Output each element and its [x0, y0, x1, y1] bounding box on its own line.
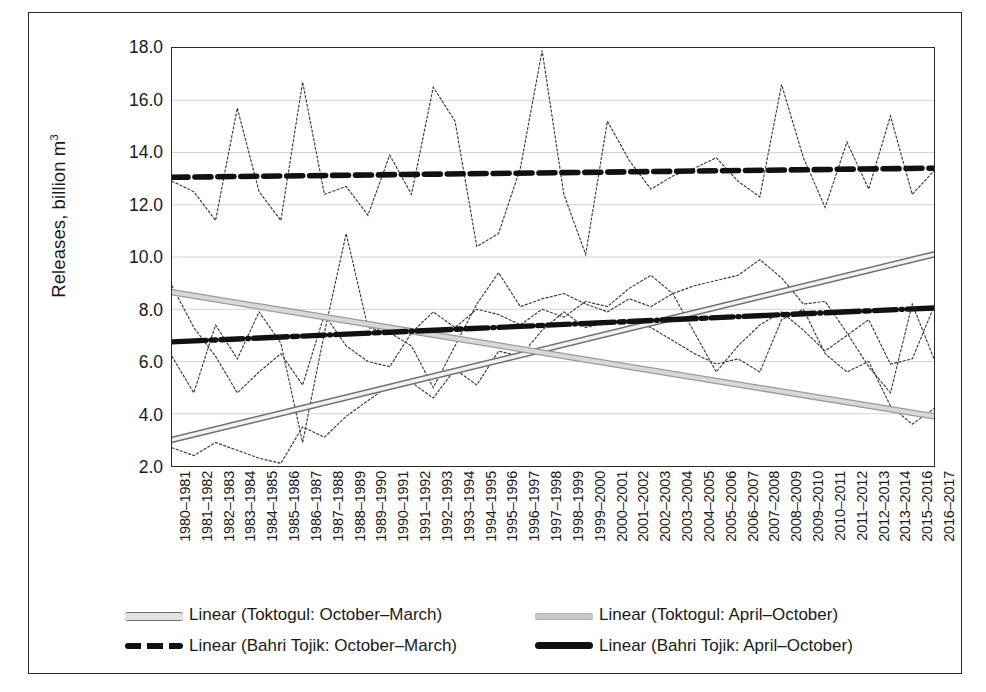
x-axis-tick-label: 2012–2013 [876, 471, 892, 542]
legend-label: Linear (Bahri Tojik: October–March) [189, 636, 457, 656]
y-axis-tick-label: 10.0 [101, 247, 163, 268]
legend-item-bahri-tojik-april-october[interactable]: Linear (Bahri Tojik: April–October) [535, 636, 885, 656]
x-axis-tick-label: 2006–2007 [745, 471, 761, 542]
y-axis-tick-labels: 18.016.014.012.010.08.06.04.02.0 [91, 47, 163, 467]
x-axis-tick-label: 1997–1998 [548, 471, 564, 542]
data-series-line [172, 275, 934, 393]
trendline [172, 168, 934, 177]
x-axis-tick-label: 1998–1999 [570, 471, 586, 542]
x-axis-tick-label: 2011–2012 [854, 471, 870, 541]
x-axis-tick-label: 2002–2003 [657, 471, 673, 542]
x-axis-tick-label: 2009–2010 [810, 471, 826, 542]
legend-item-toktogul-october-march[interactable]: Linear (Toktogul: October–March) [125, 605, 535, 625]
legend-label: Linear (Toktogul: October–March) [189, 605, 442, 625]
x-axis-tick-label: 2013–2014 [897, 471, 913, 542]
legend-swatch-black-solid [535, 639, 593, 653]
x-axis-tick-label: 2016–2017 [941, 471, 957, 542]
x-axis-tick-label: 2001–2002 [635, 471, 651, 542]
legend-label: Linear (Toktogul: April–October) [599, 605, 838, 625]
x-axis-tick-label: 2004–2005 [701, 471, 717, 542]
y-axis-tick-label: 4.0 [101, 404, 163, 425]
legend-row-2: Linear (Bahri Tojik: October–March) Line… [125, 630, 885, 661]
x-axis-tick-label: 1982–1983 [221, 471, 237, 542]
x-axis-tick-label: 1990–1991 [395, 471, 411, 542]
legend-item-toktogul-april-october[interactable]: Linear (Toktogul: April–October) [535, 605, 885, 625]
x-axis-tick-label: 1999–2000 [592, 471, 608, 542]
x-axis-tick-label: 1994–1995 [483, 471, 499, 542]
x-axis-tick-label: 1989–1990 [373, 471, 389, 542]
plot-area [171, 47, 935, 467]
y-axis-tick-label: 6.0 [101, 352, 163, 373]
y-axis-tick-label: 8.0 [101, 299, 163, 320]
data-series-layer [172, 48, 934, 466]
chart-legend: Linear (Toktogul: October–March) Linear … [125, 599, 885, 661]
legend-row-1: Linear (Toktogul: October–March) Linear … [125, 599, 885, 630]
legend-swatch-open-gray-line [125, 608, 183, 622]
y-axis-tick-label: 16.0 [101, 89, 163, 110]
y-axis-tick-label: 14.0 [101, 142, 163, 163]
x-axis-tick-label: 1988–1989 [352, 471, 368, 542]
y-axis-tick-label: 2.0 [101, 457, 163, 478]
x-axis-tick-label: 1987–1988 [330, 471, 346, 542]
x-axis-tick-label: 1980–1981 [177, 471, 193, 542]
x-axis-tick-label: 2007–2008 [766, 471, 782, 542]
y-axis-tick-label: 12.0 [101, 194, 163, 215]
y-axis-title: Releases, billion m3 [48, 36, 70, 396]
x-axis-tick-label: 2008–2009 [788, 471, 804, 542]
x-axis-tick-label: 2010–2011 [832, 471, 848, 541]
y-axis-title-text: Releases, billion m3 [48, 134, 69, 297]
legend-label: Linear (Bahri Tojik: April–October) [599, 636, 853, 656]
chart-figure: Releases, billion m3 18.016.014.012.010.… [28, 12, 962, 674]
x-axis-tick-label: 1991–1992 [417, 471, 433, 542]
x-axis-tick-label: 1984–1985 [264, 471, 280, 542]
x-axis-tick-label: 2005–2006 [723, 471, 739, 542]
x-axis-tick-label: 1981–1982 [199, 471, 215, 542]
y-axis-tick-label: 18.0 [101, 37, 163, 58]
x-axis-tick-label: 2000–2001 [614, 471, 630, 542]
x-axis-tick-label: 1986–1987 [308, 471, 324, 542]
data-series-line [172, 51, 934, 255]
legend-item-bahri-tojik-october-march[interactable]: Linear (Bahri Tojik: October–March) [125, 636, 535, 656]
legend-swatch-black-dashed [125, 639, 183, 653]
x-axis-tick-label: 2003–2004 [679, 471, 695, 542]
legend-swatch-gray-line [535, 608, 593, 622]
x-axis-tick-label: 1993–1994 [461, 471, 477, 542]
x-axis-tick-label: 1992–1993 [439, 471, 455, 542]
x-axis-tick-labels: 1980–19811981–19821982–19831983–19841984… [171, 471, 935, 591]
trendline [172, 254, 934, 439]
x-axis-tick-label: 1985–1986 [286, 471, 302, 542]
data-series-line [172, 309, 934, 463]
x-axis-tick-label: 1983–1984 [242, 471, 258, 542]
x-axis-tick-label: 1995–1996 [504, 471, 520, 542]
x-axis-tick-label: 1996–1997 [526, 471, 542, 542]
x-axis-tick-label: 2015–2016 [919, 471, 935, 542]
